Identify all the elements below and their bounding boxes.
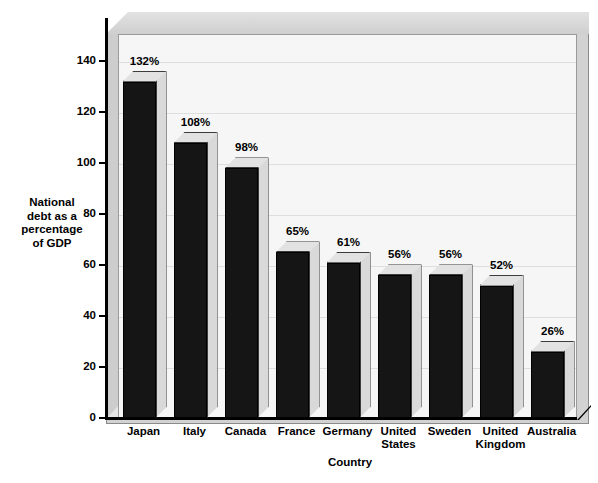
gridline: [119, 113, 576, 114]
bar-united-states[interactable]: [378, 264, 422, 418]
bar-germany[interactable]: [327, 252, 371, 418]
bar-value-label: 52%: [470, 260, 534, 272]
bar-united-kingdom[interactable]: [480, 275, 524, 418]
y-axis-tick: [99, 264, 106, 266]
y-axis-tick-label: 40: [56, 310, 96, 322]
chart-3d-top-face: [106, 12, 589, 34]
bar-side-face: [513, 275, 524, 418]
y-axis-title-line-3: percentage: [6, 223, 98, 237]
bar-value-label: 98%: [215, 142, 279, 154]
y-axis-tick: [99, 417, 106, 419]
bar-front-face: [480, 286, 513, 418]
bar-canada[interactable]: [225, 157, 269, 418]
y-axis-tick-label: 140: [56, 55, 96, 67]
y-axis-tick-label: 60: [56, 259, 96, 271]
y-axis-tick-label: 0: [56, 412, 96, 424]
chart-container: 020406080100120140 132%108%98%65%61%56%5…: [0, 0, 598, 483]
category-label-line: States: [364, 438, 433, 451]
category-label-line: Australia: [517, 425, 586, 438]
bar-front-face: [327, 263, 360, 418]
y-axis-tick: [99, 213, 106, 215]
y-axis-tick: [99, 162, 106, 164]
bar-front-face: [174, 143, 207, 418]
bar-italy[interactable]: [174, 132, 218, 418]
category-label-australia: Australia: [517, 425, 586, 438]
bar-front-face: [429, 275, 462, 418]
y-axis-tick-label: 20: [56, 361, 96, 373]
y-axis-tick: [99, 111, 106, 113]
y-axis-tick: [99, 366, 106, 368]
bar-value-label: 26%: [521, 326, 585, 338]
y-axis-tick: [99, 315, 106, 317]
bar-front-face: [123, 82, 156, 418]
bar-value-label: 61%: [317, 237, 381, 249]
bar-side-face: [462, 264, 473, 418]
bar-side-face: [309, 241, 320, 418]
y-axis-tick: [99, 60, 106, 62]
x-axis-title: Country: [290, 456, 410, 468]
gridline: [119, 62, 576, 63]
y-axis-title-line-2: debt as a: [6, 210, 98, 224]
bar-front-face: [378, 275, 411, 418]
bar-front-face: [531, 352, 564, 418]
bar-side-face: [360, 252, 371, 418]
category-label-line: Kingdom: [466, 438, 535, 451]
bar-japan[interactable]: [123, 71, 167, 418]
bar-value-label: 132%: [113, 56, 177, 68]
bar-side-face: [564, 341, 575, 418]
bar-sweden[interactable]: [429, 264, 473, 418]
bar-front-face: [225, 168, 258, 418]
bar-side-face: [207, 132, 218, 418]
bar-australia[interactable]: [531, 341, 575, 418]
y-axis-title-line-4: of GDP: [6, 237, 98, 251]
bar-front-face: [276, 252, 309, 418]
bar-side-face: [258, 157, 269, 418]
y-axis-line: [105, 18, 108, 419]
y-axis-tick-label: 120: [56, 106, 96, 118]
bar-value-label: 108%: [164, 117, 228, 129]
bar-france[interactable]: [276, 241, 320, 418]
y-axis-title: National debt as a percentage of GDP: [6, 196, 98, 250]
y-axis-title-line-1: National: [6, 196, 98, 210]
bar-side-face: [411, 264, 422, 418]
y-axis-tick-label: 100: [56, 157, 96, 169]
